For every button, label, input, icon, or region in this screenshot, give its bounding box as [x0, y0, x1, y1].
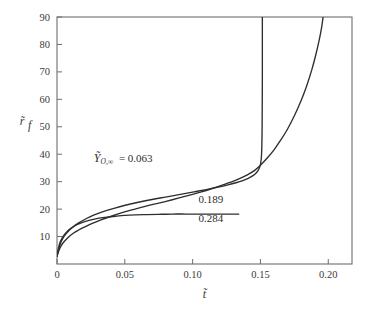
annotation-0.189: 0.189 — [199, 193, 224, 205]
y-tick-label: 50 — [40, 121, 51, 132]
y-axis-title: r̃f — [20, 114, 33, 132]
y-tick-label: 30 — [40, 176, 51, 187]
y-tick-label: 10 — [40, 231, 51, 242]
x-tick-label: 0 — [54, 269, 59, 280]
x-tick-label: 0.20 — [319, 269, 337, 280]
plot-frame — [57, 17, 352, 264]
svg-text:r̃: r̃ — [20, 114, 26, 128]
annotation-0.284: 0.284 — [199, 212, 224, 224]
x-tick-label: 0.10 — [183, 269, 201, 280]
y-tick-label: 80 — [40, 39, 51, 50]
line-chart: 00.050.100.150.20102030405060708090t̃r̃f… — [0, 0, 367, 314]
series-line-0.063 — [57, 17, 323, 256]
annotation-0.063: ỸO,∞ = 0.063 — [94, 151, 153, 166]
y-tick-label: 40 — [40, 149, 51, 160]
figure-container: 00.050.100.150.20102030405060708090t̃r̃f… — [0, 0, 367, 314]
x-tick-label: 0.15 — [251, 269, 269, 280]
y-tick-label: 70 — [40, 66, 51, 77]
svg-text:f: f — [28, 118, 33, 132]
y-tick-label: 90 — [40, 12, 51, 23]
y-tick-label: 20 — [40, 204, 51, 215]
y-tick-label: 60 — [40, 94, 51, 105]
x-tick-label: 0.05 — [116, 269, 134, 280]
x-axis-title: t̃ — [203, 287, 208, 301]
